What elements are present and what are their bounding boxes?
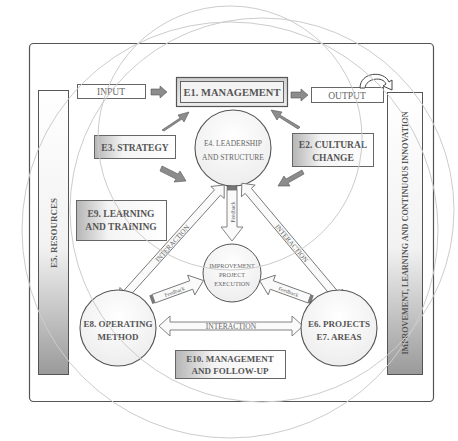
e3-strategy-box: E3. STRATEGY [95, 136, 176, 159]
e8-operating-method-circle: E8. OPERATING METHOD [80, 290, 156, 366]
interaction-arrow-bottom: INTERACTION [159, 316, 303, 336]
e3-strategy-label: E3. STRATEGY [101, 143, 169, 153]
improvement-project-circle: IMPROVEMENT PROJECT EXECUTION [203, 244, 261, 302]
e7-label-line2: E7. AREAS [316, 332, 361, 342]
arrow-e3-to-e4-icon [160, 166, 186, 182]
arrow-e2-to-e1-icon [271, 110, 300, 129]
feedback-arrow-right: Feedback [256, 271, 316, 310]
e9-learning-box: E9. LEARNING AND TRAINING [77, 201, 167, 241]
interaction-right-label: INTERACTION [273, 223, 309, 264]
arrow-e1-to-output-icon [291, 89, 308, 101]
e10-label-line1: E10. MANAGEMENT [186, 354, 274, 364]
e5-resources-bar: E5. RESOURCES [39, 91, 69, 375]
e1-management-box: E1. MANAGEMENT [177, 78, 288, 107]
e2-label-line1: E2. CULTURAL [299, 140, 367, 150]
feedback-top-label: Feedback [230, 201, 236, 222]
e4-label-line1: E4. LEADERSHIP [204, 139, 262, 148]
feedback-arrow-left: Feedback [147, 271, 207, 310]
e10-management-followup-box: E10. MANAGEMENT AND FOLLOW-UP [176, 351, 286, 379]
center-label-line2: PROJECT [219, 271, 245, 278]
e10-label-line2: AND FOLLOW-UP [192, 366, 269, 376]
e6-e7-projects-areas-circle: E6. PROJECTS E7. AREAS [301, 290, 377, 366]
e6-label-line1: E6. PROJECTS [308, 319, 370, 329]
arrow-e2-to-e4-icon [278, 170, 304, 186]
improvement-innovation-label: IMPROVEMENT, LEARNING AND CONTINUOUS INN… [401, 111, 410, 354]
e9-label-line1: E9. LEARNING [87, 209, 155, 219]
output-label: OUTPUT [328, 91, 366, 101]
arrow-input-to-e1-icon [151, 86, 167, 98]
e1-management-label: E1. MANAGEMENT [184, 87, 281, 98]
improvement-model-diagram: E5. RESOURCES IMPROVEMENT, LEARNING AND … [0, 0, 458, 441]
arrow-e3-to-e1-icon [162, 112, 189, 131]
e8-label-line1: E8. OPERATING [84, 319, 153, 329]
e4-leadership-circle: E4. LEADERSHIP AND STRUCTURE [195, 110, 271, 186]
improvement-innovation-bar: IMPROVEMENT, LEARNING AND CONTINUOUS INN… [388, 93, 423, 375]
output-box: OUTPUT [312, 88, 384, 103]
e4-label-line2: AND STRUCTURE [202, 153, 264, 162]
e2-label-line2: CHANGE [312, 153, 354, 163]
center-label-line3: EXECUTION [214, 280, 250, 287]
interaction-bottom-label: INTERACTION [206, 322, 257, 331]
center-label-line1: IMPROVEMENT [209, 262, 255, 269]
e5-resources-label: E5. RESOURCES [49, 198, 59, 268]
e9-label-line2: AND TRAINING [85, 222, 157, 232]
